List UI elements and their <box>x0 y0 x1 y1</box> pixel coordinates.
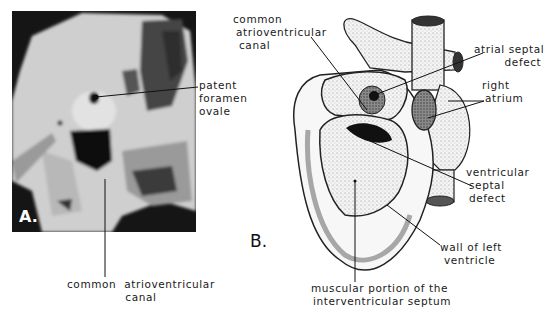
label-line: canal <box>233 39 327 52</box>
label-line: patent <box>199 79 247 92</box>
label-line: wall of left <box>440 241 502 254</box>
label-patent-foramen-ovale: patent foramen ovale <box>199 79 247 118</box>
label-common-av-canal-a: common atrioventricular canal <box>67 278 215 304</box>
label-line: right <box>482 79 523 92</box>
label-muscular-portion-septum: muscular portion of the interventricular… <box>311 282 451 308</box>
label-line: canal <box>67 291 215 304</box>
label-line: ventricular <box>466 166 529 179</box>
label-line: defect <box>474 56 544 69</box>
label-right-atrium: right atrium <box>482 79 523 105</box>
label-line: common atrioventricular <box>67 278 215 291</box>
label-ventricular-septal-defect: ventricular septal defect <box>466 166 529 205</box>
label-line: muscular portion of the <box>311 282 451 295</box>
label-line: atrium <box>482 92 523 105</box>
panel-b-letter: B. <box>250 231 267 251</box>
label-line: foramen <box>199 92 247 105</box>
label-wall-of-left-ventricle: wall of left ventricle <box>440 241 502 267</box>
label-line: atrioventricular <box>233 26 327 39</box>
label-line: ovale <box>199 105 247 118</box>
label-line: common <box>233 13 327 26</box>
label-atrial-septal-defect: atrial septal defect <box>474 43 544 69</box>
label-common-av-canal-b: common atrioventricular canal <box>233 13 327 52</box>
label-line: interventricular septum <box>311 295 451 308</box>
label-line: ventricle <box>440 254 502 267</box>
label-line: septal <box>466 179 529 192</box>
label-line: defect <box>466 192 529 205</box>
label-line: atrial septal <box>474 43 544 56</box>
